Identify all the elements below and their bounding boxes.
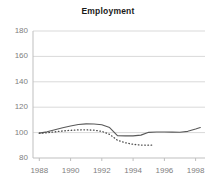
y-axis-label-160: 160 [2, 52, 28, 60]
y-axis-label-100: 100 [2, 129, 28, 137]
axis-lines [33, 31, 205, 158]
gridlines [33, 31, 205, 133]
x-axis-label-1988: 1988 [24, 167, 54, 175]
chart-container: Employment 180 160 140 120 100 80 1988 1 [0, 0, 216, 191]
y-axis-label-80: 80 [2, 154, 28, 162]
data-line-solid [39, 124, 200, 136]
x-axis-label-1990: 1990 [56, 167, 86, 175]
x-axis-label-1996: 1996 [149, 167, 179, 175]
y-axis-label-140: 140 [2, 78, 28, 86]
x-axis-label-1992: 1992 [87, 167, 117, 175]
plot-area [0, 0, 216, 191]
x-axis-label-1998: 1998 [181, 167, 211, 175]
x-axis-label-1994: 1994 [118, 167, 148, 175]
y-axis-label-120: 120 [2, 103, 28, 111]
y-axis-label-180: 180 [2, 27, 28, 35]
